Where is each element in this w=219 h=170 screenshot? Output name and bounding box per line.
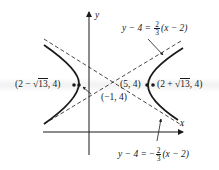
upper-asymptote-equation: y − 4 = 23(x − 2) [122, 21, 188, 36]
x-axis-label: x [180, 119, 184, 129]
equation-rhs: (x − 2) [161, 23, 187, 33]
equation-fraction: 23 [156, 147, 162, 162]
lower-asymptote-equation: y − 4 = −23(x − 2) [118, 147, 189, 162]
left-vertex-leader [83, 87, 91, 94]
equation-sign: − [149, 149, 154, 159]
right-focus-point [151, 83, 155, 87]
left-focus-point [72, 83, 76, 87]
equation-lhs: y − 4 = [118, 149, 147, 159]
y-axis-label: y [95, 11, 99, 21]
lower-asymptote-leader [157, 119, 161, 141]
left-vertex-label: (−1, 4) [101, 93, 127, 103]
left-vertex-point [77, 83, 81, 87]
left-focus-label: (2 − √13, 4) [15, 80, 60, 90]
right-vertex-label: (5, 4) [120, 80, 141, 90]
equation-fraction: 23 [154, 21, 160, 36]
upper-asymptote-leader [148, 39, 163, 55]
equation-rhs: (x − 2) [162, 149, 188, 159]
equation-lhs: y − 4 = [122, 23, 151, 33]
right-vertex-point [145, 83, 149, 87]
right-focus-label: (2 + √13, 4) [157, 80, 202, 90]
